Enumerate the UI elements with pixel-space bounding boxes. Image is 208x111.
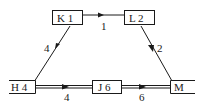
arrowhead-icon — [98, 13, 104, 18]
node-label-l: L 2 — [129, 12, 144, 24]
edge-j-to-m: 6 — [122, 84, 170, 103]
node-label-m: M — [174, 81, 184, 93]
node-l: L 2 — [125, 11, 155, 25]
node-k: K 1 — [53, 11, 83, 25]
arrowhead-icon — [139, 84, 146, 90]
node-label-j: J 6 — [98, 81, 111, 93]
edge-h-to-j: 4 — [35, 84, 92, 103]
arrowhead-icon — [148, 45, 154, 52]
arrowhead-icon — [62, 84, 69, 90]
edge-h-to-k: 4 — [34, 26, 70, 82]
node-label-h: H 4 — [11, 81, 28, 93]
edge-label-k-l: 1 — [101, 20, 107, 32]
arrowhead-icon — [55, 43, 60, 49]
edge-label-h-k: 4 — [44, 42, 50, 54]
node-m: M — [171, 81, 196, 94]
edge-k-to-l: 1 — [82, 13, 124, 33]
edge-label-l-m: 2 — [157, 42, 163, 54]
node-j: J 6 — [93, 81, 122, 94]
network-diagram: 4 1 2 4 6 K 1 L 2 H 4 — [0, 0, 208, 111]
edge-label-h-j: 4 — [64, 91, 70, 103]
node-h: H 4 — [9, 81, 36, 94]
edge-label-j-m: 6 — [139, 91, 145, 103]
node-label-k: K 1 — [57, 12, 73, 24]
edge-l-to-m: 2 — [141, 26, 172, 81]
